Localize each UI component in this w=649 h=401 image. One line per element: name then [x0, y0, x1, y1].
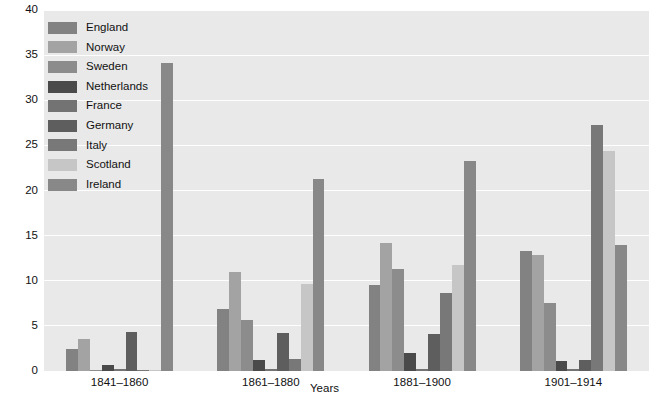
bar: [392, 269, 404, 371]
legend-swatch-icon: [48, 159, 77, 171]
legend-item: Italy: [48, 136, 153, 156]
bar: [591, 125, 603, 371]
legend-label: England: [86, 22, 128, 34]
bar: [289, 359, 301, 371]
legend-swatch-icon: [48, 120, 77, 132]
bar: [301, 284, 313, 371]
bar: [126, 332, 138, 371]
legend-item: Ireland: [48, 175, 153, 195]
bar: [229, 272, 241, 371]
bar-group: [217, 10, 324, 371]
y-tick-label: 5: [32, 320, 38, 332]
legend-swatch-icon: [48, 22, 77, 34]
bar: [464, 161, 476, 371]
legend-label: Sweden: [86, 61, 128, 73]
bar-group: [369, 10, 476, 371]
y-tick-label: 30: [25, 95, 38, 107]
legend-label: Germany: [86, 120, 133, 132]
bar: [520, 251, 532, 371]
x-axis-title: Years: [0, 382, 649, 394]
bar-group: [520, 10, 627, 371]
bar: [615, 245, 627, 371]
bar: [277, 333, 289, 371]
legend-item: France: [48, 96, 153, 116]
legend-swatch-icon: [48, 61, 77, 73]
bar: [532, 255, 544, 371]
bar: [161, 63, 173, 371]
legend-label: Ireland: [86, 179, 121, 191]
bar: [404, 353, 416, 371]
chart-legend: EnglandNorwaySwedenNetherlandsFranceGerm…: [48, 18, 153, 194]
legend-swatch-icon: [48, 41, 77, 53]
bar: [241, 320, 253, 371]
legend-swatch-icon: [48, 179, 77, 191]
legend-label: Norway: [86, 42, 125, 54]
legend-label: Italy: [86, 140, 107, 152]
bar: [66, 349, 78, 371]
y-axis: 0510152025303540: [0, 0, 44, 401]
y-tick-label: 35: [25, 49, 38, 61]
y-tick-label: 15: [25, 230, 38, 242]
bar: [369, 285, 381, 371]
y-tick-label: 25: [25, 140, 38, 152]
legend-item: England: [48, 18, 153, 38]
bar: [544, 303, 556, 371]
y-tick-label: 40: [25, 4, 38, 16]
legend-item: Sweden: [48, 57, 153, 77]
legend-item: Netherlands: [48, 77, 153, 97]
legend-swatch-icon: [48, 100, 77, 112]
bar-chart: 0510152025303540 1841–18601861–18801881–…: [0, 0, 649, 401]
bar: [579, 360, 591, 371]
bar: [603, 151, 615, 371]
bar: [440, 293, 452, 371]
bar: [217, 309, 229, 371]
bar: [428, 334, 440, 371]
legend-label: Netherlands: [86, 81, 148, 93]
legend-swatch-icon: [48, 81, 77, 93]
legend-label: France: [86, 100, 122, 112]
legend-item: Germany: [48, 116, 153, 136]
y-tick-label: 0: [32, 365, 38, 377]
legend-item: Norway: [48, 38, 153, 58]
bar: [380, 243, 392, 371]
legend-item: Scotland: [48, 155, 153, 175]
bar: [313, 179, 325, 371]
y-tick-label: 10: [25, 275, 38, 287]
legend-swatch-icon: [48, 139, 77, 151]
bar: [253, 360, 265, 371]
y-tick-label: 20: [25, 185, 38, 197]
bar: [78, 339, 90, 371]
legend-label: Scotland: [86, 159, 131, 171]
bar: [556, 361, 568, 371]
bar: [452, 265, 464, 371]
